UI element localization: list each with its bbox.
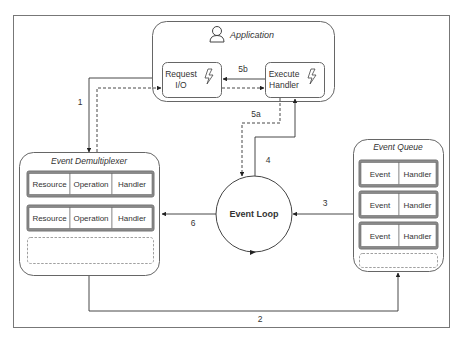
edge-1: [89, 78, 152, 152]
request-io-line1: Request: [165, 69, 197, 79]
queue-row: Event Handler: [359, 191, 438, 218]
edge-label-6: 6: [191, 218, 196, 228]
edge-label-5a: 5a: [251, 109, 261, 119]
execute-handler-line1: Execute: [269, 69, 300, 79]
queue-row: Event Handler: [359, 160, 438, 187]
edge-label-5b: 5b: [238, 64, 248, 74]
edge-label-1: 1: [78, 97, 83, 107]
queue-row: Event Handler: [359, 222, 438, 249]
edge-4: [255, 99, 295, 176]
event-loop-node: Event Loop: [216, 176, 292, 255]
demux-cell: Handler: [118, 180, 146, 189]
demux-row: Resource Operation Handler: [27, 205, 154, 231]
event-queue-box: Event Queue Event Handler Event Handler …: [354, 140, 444, 272]
demux-row: Resource Operation Handler: [27, 171, 154, 197]
demux-cell: Resource: [32, 180, 67, 189]
demux-cell: Resource: [32, 214, 67, 223]
queue-cell: Handler: [403, 170, 431, 179]
execute-handler-box: Execute Handler: [266, 63, 325, 98]
edge-label-4: 4: [266, 155, 271, 165]
demux-cell: Operation: [73, 180, 108, 189]
edge-label-3: 3: [323, 198, 328, 208]
queue-cell: Handler: [403, 232, 431, 241]
queue-cell: Event: [370, 232, 391, 241]
demux-cell: Handler: [118, 214, 146, 223]
edge-2: [89, 273, 398, 311]
demux-cell: Operation: [73, 214, 108, 223]
execute-handler-line2: Handler: [269, 80, 299, 90]
queue-cell: Event: [370, 170, 391, 179]
event-demultiplexer-box: Event Demultiplexer Resource Operation H…: [20, 153, 160, 276]
edge-label-2: 2: [258, 314, 263, 324]
event-loop-label: Event Loop: [230, 209, 280, 219]
request-io-box: Request I/O: [163, 63, 222, 98]
queue-cell: Handler: [403, 201, 431, 210]
event-loop-diagram: Application Request I/O Execute Handler …: [0, 0, 458, 340]
edge-demux-to-request: [97, 88, 161, 152]
demux-title: Event Demultiplexer: [51, 156, 128, 166]
event-queue-title: Event Queue: [373, 142, 423, 152]
queue-cell: Event: [370, 201, 391, 210]
application-title: Application: [229, 30, 274, 40]
request-io-line2: I/O: [175, 80, 187, 90]
